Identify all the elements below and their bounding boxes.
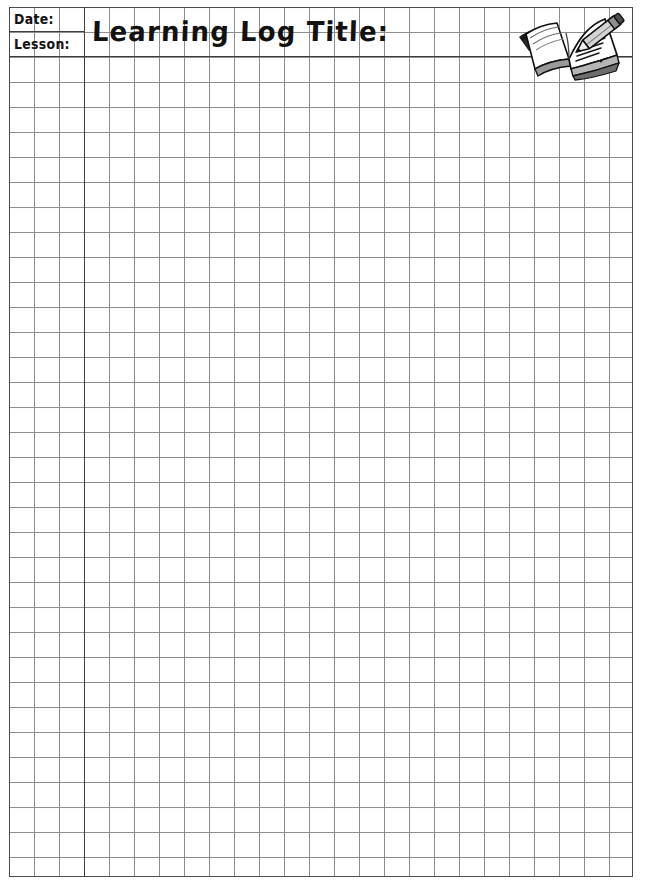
graph-paper-grid	[9, 7, 633, 877]
column-divider	[84, 7, 85, 877]
lesson-field-row[interactable]: Lesson:	[9, 32, 84, 57]
meta-column: Date: Lesson:	[9, 7, 84, 57]
lesson-label: Lesson:	[9, 36, 70, 52]
worksheet-page: Date: Lesson: Learning Log Title:	[0, 0, 650, 896]
title-field-row[interactable]: Learning Log Title:	[92, 7, 512, 57]
date-label: Date:	[9, 11, 54, 27]
open-book-with-pencil-icon	[513, 3, 629, 83]
date-field-row[interactable]: Date:	[9, 7, 84, 32]
page-title: Learning Log Title:	[91, 16, 389, 48]
